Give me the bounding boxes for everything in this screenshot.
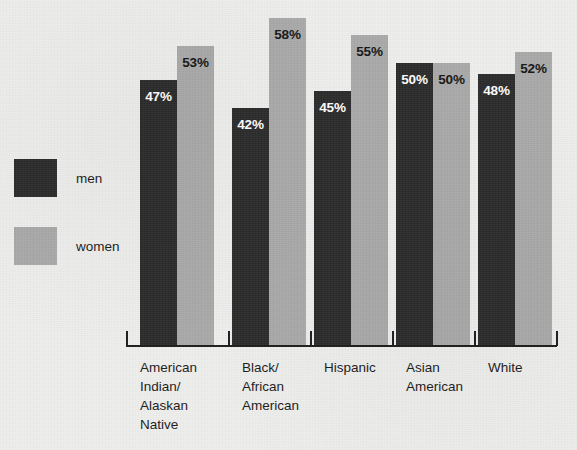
bar-group: 47%53% <box>140 45 214 345</box>
bar-men: 42% <box>232 45 269 345</box>
bar-value-label: 52% <box>515 61 552 76</box>
bar-group: 50%50% <box>396 45 470 345</box>
bar-women: 50% <box>433 45 470 345</box>
bar-women: 53% <box>177 45 214 345</box>
bar-rect: 48% <box>478 74 515 345</box>
bar-value-label: 58% <box>269 27 306 42</box>
bar-rect: 52% <box>515 52 552 345</box>
bar-women: 55% <box>351 45 388 345</box>
bar-rect: 50% <box>396 63 433 345</box>
bar-rect: 45% <box>314 91 351 345</box>
bar-rect: 55% <box>351 35 388 345</box>
bar-women: 58% <box>269 45 306 345</box>
bar-value-label: 50% <box>433 72 470 87</box>
bar-rect: 50% <box>433 63 470 345</box>
bar-rect: 53% <box>177 46 214 345</box>
bar-men: 48% <box>478 45 515 345</box>
bar-women: 52% <box>515 45 552 345</box>
bar-rect: 42% <box>232 108 269 345</box>
bar-men: 47% <box>140 45 177 345</box>
bar-value-label: 55% <box>351 44 388 59</box>
bar-value-label: 42% <box>232 117 269 132</box>
bar-value-label: 45% <box>314 100 351 115</box>
plot-area: 47%53%42%58%45%55%50%50%48%52% <box>0 0 577 450</box>
bar-value-label: 48% <box>478 83 515 98</box>
bar-value-label: 47% <box>140 89 177 104</box>
bar-group: 48%52% <box>478 45 552 345</box>
bar-men: 45% <box>314 45 351 345</box>
bar-group: 42%58% <box>232 45 306 345</box>
bar-value-label: 53% <box>177 55 214 70</box>
bar-rect: 58% <box>269 18 306 345</box>
bar-men: 50% <box>396 45 433 345</box>
bar-value-label: 50% <box>396 72 433 87</box>
bar-rect: 47% <box>140 80 177 345</box>
grouped-bar-chart: men women 47%53%42%58%45%55%50%50%48%52%… <box>0 0 577 450</box>
bar-group: 45%55% <box>314 45 388 345</box>
